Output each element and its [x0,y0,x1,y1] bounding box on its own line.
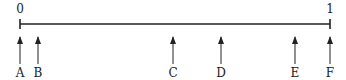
point-label-a: A [15,66,25,80]
endpoint-label-0: 0 [16,2,24,16]
endpoint-label-1: 1 [326,2,334,16]
point-label-f: F [326,66,334,80]
number-line-canvas: 01 ABCDEF [0,0,346,80]
point-label-b: B [34,66,43,80]
point-label-c: C [168,66,177,80]
point-label-e: E [291,66,300,80]
endpoint-labels: 01 [16,2,334,29]
number-line-diagram: 01 ABCDEF [0,0,346,80]
point-label-d: D [216,66,226,80]
point-arrows: ABCDEF [15,37,335,80]
